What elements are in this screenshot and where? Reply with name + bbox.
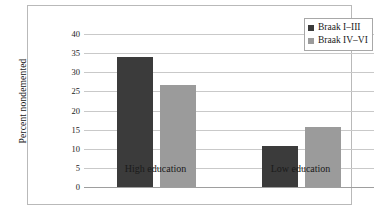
- legend-item-1[interactable]: Braak IV–VI: [308, 34, 368, 47]
- y-tick-label-15: 15: [72, 125, 81, 134]
- y-tick-label-35: 35: [72, 49, 81, 58]
- x-axis-category-label-0: High education: [125, 163, 186, 174]
- legend-item-0[interactable]: Braak I–III: [308, 21, 368, 34]
- x-axis-category-label-1: Low education: [271, 163, 331, 174]
- chart-frame: 0510152025303540 Braak I–IIIBraak IV–VI …: [27, 5, 352, 205]
- y-tick-label-5: 5: [76, 164, 80, 173]
- y-tick-label-40: 40: [72, 30, 81, 39]
- bar-low-education-series-1: [305, 127, 341, 187]
- y-tick-label-25: 25: [72, 87, 81, 96]
- y-tick-label-0: 0: [76, 183, 80, 192]
- y-tick-label-10: 10: [72, 145, 81, 154]
- y-tick-label-20: 20: [72, 106, 81, 115]
- gridline-35: 35: [84, 53, 374, 54]
- legend-swatch-icon-1: [308, 38, 314, 44]
- legend-label-1: Braak IV–VI: [318, 36, 368, 46]
- legend-label-0: Braak I–III: [318, 23, 360, 33]
- gridline-0: 0: [84, 187, 374, 188]
- legend-swatch-icon-0: [308, 25, 314, 31]
- chart-legend: Braak I–IIIBraak IV–VI: [304, 18, 373, 51]
- y-tick-label-30: 30: [72, 68, 81, 77]
